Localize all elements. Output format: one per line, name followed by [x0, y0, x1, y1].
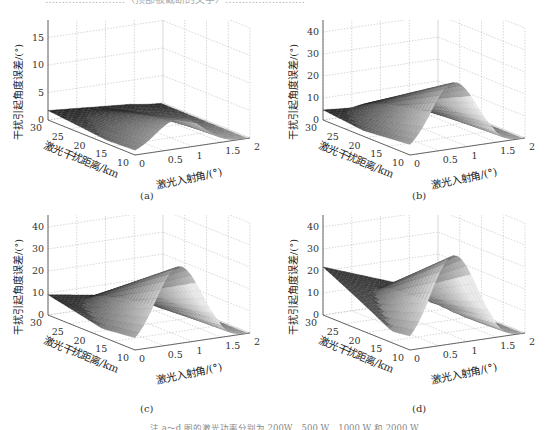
svg-text:0: 0 [139, 158, 145, 169]
caption-c: (c) [140, 403, 153, 414]
svg-text:干扰引起角度误差/(°): 干扰引起角度误差/(°) [12, 239, 24, 335]
svg-text:干扰引起角度误差/(°): 干扰引起角度误差/(°) [287, 44, 299, 140]
caption-b: (b) [412, 190, 426, 201]
svg-text:10: 10 [307, 92, 319, 103]
svg-text:0: 0 [414, 158, 420, 169]
svg-text:1: 1 [472, 150, 478, 161]
svg-text:15: 15 [95, 343, 107, 354]
chart-panel-a: 0510152000.511.521015202530干扰引起角度误差/(°)激… [0, 20, 275, 220]
surface-plot-d: 0102030405000.511.521015202530干扰引起角度误差/(… [275, 215, 550, 415]
svg-text:40: 40 [307, 221, 319, 232]
svg-text:25: 25 [52, 131, 64, 142]
svg-text:2: 2 [529, 336, 535, 347]
svg-text:10: 10 [392, 157, 404, 168]
svg-text:5: 5 [38, 87, 44, 98]
svg-text:2: 2 [254, 336, 260, 347]
svg-text:30: 30 [30, 317, 42, 328]
svg-text:20: 20 [73, 140, 85, 151]
svg-text:20: 20 [307, 70, 319, 81]
svg-text:25: 25 [327, 131, 339, 142]
surface-plot-c: 0102030405000.511.521015202530干扰引起角度误差/(… [0, 215, 275, 415]
figure-note: 注 a～d 图的激光功率分别为 200W、500 W、1000 W 和 2000… [150, 421, 419, 430]
surface-plot-a: 0510152000.511.521015202530干扰引起角度误差/(°)激… [0, 20, 275, 220]
svg-text:25: 25 [52, 326, 64, 337]
svg-text:激光入射角/(°): 激光入射角/(°) [155, 360, 223, 386]
svg-text:30: 30 [307, 48, 319, 59]
svg-text:1: 1 [197, 150, 203, 161]
svg-text:干扰引起角度误差/(°): 干扰引起角度误差/(°) [12, 44, 24, 140]
svg-text:激光入射角/(°): 激光入射角/(°) [430, 360, 498, 386]
svg-text:10: 10 [117, 352, 129, 363]
svg-text:10: 10 [32, 59, 44, 70]
svg-text:0.5: 0.5 [443, 349, 458, 360]
caption-a: (a) [140, 190, 154, 201]
svg-text:1.5: 1.5 [225, 145, 240, 156]
svg-text:干扰引起角度误差/(°): 干扰引起角度误差/(°) [287, 239, 299, 335]
svg-text:0: 0 [414, 353, 420, 364]
svg-text:10: 10 [307, 287, 319, 298]
svg-text:15: 15 [370, 343, 382, 354]
caption-d: (d) [412, 403, 426, 414]
svg-text:20: 20 [307, 265, 319, 276]
svg-text:30: 30 [305, 317, 317, 328]
svg-text:激光入射角/(°): 激光入射角/(°) [155, 165, 223, 191]
svg-text:40: 40 [32, 221, 44, 232]
chart-panel-d: 0102030405000.511.521015202530干扰引起角度误差/(… [275, 215, 550, 415]
svg-text:30: 30 [30, 122, 42, 133]
svg-text:30: 30 [32, 243, 44, 254]
svg-text:1: 1 [472, 345, 478, 356]
svg-text:1.5: 1.5 [500, 340, 515, 351]
svg-text:1.5: 1.5 [500, 145, 515, 156]
svg-text:10: 10 [32, 287, 44, 298]
svg-text:20: 20 [73, 335, 85, 346]
svg-text:15: 15 [95, 148, 107, 159]
truncated-top-text: ……………………（顶部被截断的文字）…………………… [45, 0, 365, 4]
svg-text:30: 30 [305, 122, 317, 133]
svg-text:10: 10 [117, 157, 129, 168]
svg-text:0.5: 0.5 [168, 154, 183, 165]
svg-text:20: 20 [32, 265, 44, 276]
svg-text:1.5: 1.5 [225, 340, 240, 351]
svg-text:10: 10 [392, 352, 404, 363]
svg-text:激光入射角/(°): 激光入射角/(°) [430, 165, 498, 191]
svg-text:15: 15 [370, 148, 382, 159]
svg-text:15: 15 [32, 32, 44, 43]
svg-text:1: 1 [197, 345, 203, 356]
svg-text:0.5: 0.5 [168, 349, 183, 360]
svg-text:0: 0 [139, 353, 145, 364]
svg-text:2: 2 [529, 141, 535, 152]
svg-text:0.5: 0.5 [443, 154, 458, 165]
svg-text:2: 2 [254, 141, 260, 152]
svg-text:40: 40 [307, 26, 319, 37]
chart-panel-c: 0102030405000.511.521015202530干扰引起角度误差/(… [0, 215, 275, 415]
svg-text:20: 20 [348, 140, 360, 151]
svg-text:20: 20 [348, 335, 360, 346]
svg-text:30: 30 [307, 243, 319, 254]
svg-text:25: 25 [327, 326, 339, 337]
